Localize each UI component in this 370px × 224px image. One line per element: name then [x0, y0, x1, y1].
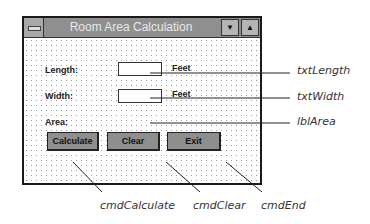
callout-lines [0, 0, 370, 224]
callout-txtwidth: txtWidth [297, 90, 344, 103]
callout-txtlength: txtLength [297, 64, 350, 77]
callout-cmdcalculate: cmdCalculate [100, 199, 175, 212]
callout-cmdclear: cmdClear [193, 199, 246, 212]
callout-lblarea: lblArea [297, 115, 336, 128]
callout-cmdend: cmdEnd [261, 199, 306, 212]
